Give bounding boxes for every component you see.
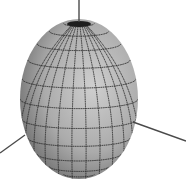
- y-axis-line: [0, 135, 25, 153]
- ellipsoid-diagram: [0, 0, 186, 180]
- x-axis-line: [133, 122, 186, 141]
